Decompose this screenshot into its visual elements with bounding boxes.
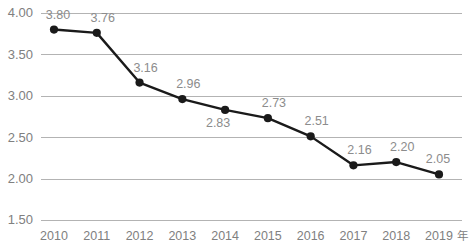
data-point-value-label: 2.05 — [426, 152, 450, 166]
x-axis-tick-label: 2015 — [254, 229, 282, 243]
data-point-marker[interactable] — [392, 158, 400, 166]
x-axis-tick-label: 2019 — [425, 229, 453, 243]
data-point-marker[interactable] — [221, 106, 229, 114]
x-axis-tick-label: 2010 — [40, 229, 68, 243]
y-axis-tick-label: 2.50 — [8, 130, 33, 145]
line-chart: 4.003.503.002.502.001.503.803.763.162.96… — [0, 0, 470, 252]
x-axis-tick-label: 2012 — [126, 229, 154, 243]
y-axis-tick-label: 1.50 — [8, 212, 33, 227]
series-line — [54, 30, 439, 175]
y-axis-tick-label: 3.00 — [8, 88, 33, 103]
x-axis-tick-label: 2018 — [382, 229, 410, 243]
data-point-marker[interactable] — [307, 132, 315, 140]
x-axis-tick-label: 2016 — [297, 229, 325, 243]
data-point-value-label: 2.83 — [206, 116, 230, 130]
data-point-marker[interactable] — [178, 95, 186, 103]
data-point-value-label: 2.16 — [347, 143, 371, 157]
x-axis-tick-label: 2013 — [168, 229, 196, 243]
chart-canvas: 4.003.503.002.502.001.503.803.763.162.96… — [0, 0, 470, 252]
y-axis-tick-label: 2.00 — [8, 171, 33, 186]
x-axis-tick-label: 2011 — [83, 229, 110, 243]
data-point-value-label: 2.73 — [262, 96, 286, 110]
data-point-marker[interactable] — [349, 161, 357, 169]
y-axis-tick-label: 3.50 — [8, 47, 33, 62]
data-point-value-label: 3.76 — [91, 11, 115, 25]
x-axis-tick-label: 2017 — [340, 229, 368, 243]
x-axis-unit-label: 年 — [457, 229, 468, 242]
data-point-marker[interactable] — [435, 170, 443, 178]
data-point-marker[interactable] — [135, 78, 143, 86]
y-axis-tick-label: 4.00 — [8, 5, 33, 20]
x-axis-tick-label: 2014 — [211, 229, 239, 243]
data-point-value-label: 2.96 — [176, 77, 200, 91]
data-point-marker[interactable] — [93, 29, 101, 37]
data-point-value-label: 3.80 — [46, 8, 70, 22]
data-point-value-label: 2.20 — [390, 140, 414, 154]
data-point-marker[interactable] — [264, 114, 272, 122]
data-point-value-label: 2.51 — [304, 114, 328, 128]
data-point-marker[interactable] — [50, 25, 58, 33]
data-point-value-label: 3.16 — [133, 61, 157, 75]
